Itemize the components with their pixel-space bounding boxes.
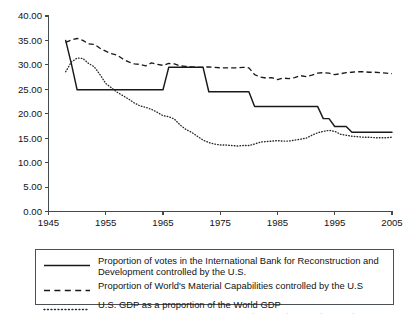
legend-label-ibrd-votes: Proportion of votes in the International… xyxy=(98,255,387,278)
x-axis-tick-label: 1955 xyxy=(95,217,116,228)
y-axis-tick-label: 5.00 xyxy=(23,181,42,192)
y-axis-tick-label: 40.00 xyxy=(18,10,42,21)
plot-area: 0.005.0010.0015.0020.0025.0030.0035.0040… xyxy=(0,0,410,240)
legend-item-ibrd-votes: Proportion of votes in the International… xyxy=(36,255,393,278)
legend-item-material-capabilities: Proportion of World's Material Capabilit… xyxy=(36,280,393,297)
x-axis-tick-label: 2005 xyxy=(381,217,402,228)
chart-figure: 0.005.0010.0015.0020.0025.0030.0035.0040… xyxy=(0,0,410,318)
data-series-line-2 xyxy=(66,58,392,146)
y-axis-tick-label: 30.00 xyxy=(18,59,42,70)
x-axis-tick-label: 1945 xyxy=(38,217,59,228)
y-axis-tick-label: 15.00 xyxy=(18,133,42,144)
legend-swatch-dashed-icon xyxy=(43,284,91,297)
y-axis-tick-label: 0.00 xyxy=(23,206,42,217)
x-axis-tick-label: 1995 xyxy=(324,217,345,228)
y-axis-tick-label: 20.00 xyxy=(18,108,42,119)
page-bottom-artifact: . . . . xyxy=(0,308,410,318)
x-axis-tick-label: 1965 xyxy=(152,217,173,228)
legend-label-material-capabilities: Proportion of World's Material Capabilit… xyxy=(98,280,387,291)
x-axis-tick-label: 1975 xyxy=(210,217,231,228)
line-chart-svg: 0.005.0010.0015.0020.0025.0030.0035.0040… xyxy=(0,0,410,240)
data-series-line-1 xyxy=(66,38,392,79)
x-axis-tick-label: 1985 xyxy=(267,217,288,228)
chart-legend: Proportion of votes in the International… xyxy=(35,249,394,305)
y-axis-tick-label: 10.00 xyxy=(18,157,42,168)
legend-swatch-solid-icon xyxy=(43,259,91,272)
y-axis-tick-label: 35.00 xyxy=(18,35,42,46)
y-axis-tick-label: 25.00 xyxy=(18,84,42,95)
